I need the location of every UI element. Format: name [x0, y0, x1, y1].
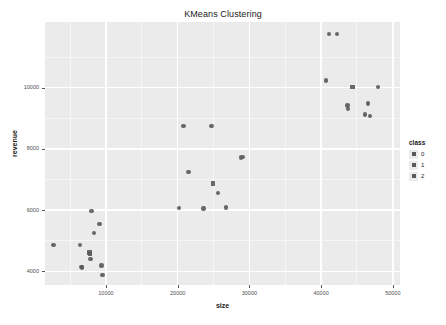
- legend-key-glyph: [412, 174, 416, 178]
- x-tick-mark: [321, 285, 322, 288]
- x-tick-label: 20000: [158, 290, 198, 296]
- x-tick-label: 40000: [301, 290, 341, 296]
- legend-item-label: 0: [421, 151, 424, 157]
- legend: class 012: [409, 139, 445, 182]
- legend-item-0[interactable]: 0: [409, 149, 445, 160]
- legend-item-label: 2: [421, 173, 424, 179]
- chart-title: KMeans Clustering: [0, 9, 446, 19]
- data-points-layer: [45, 22, 400, 285]
- data-point: [92, 231, 96, 235]
- data-point: [224, 205, 228, 209]
- legend-item-2[interactable]: 2: [409, 171, 445, 182]
- legend-items: 012: [409, 149, 445, 182]
- data-point: [51, 243, 55, 247]
- x-tick-mark: [393, 285, 394, 288]
- data-point: [363, 112, 367, 116]
- y-tick-mark: [42, 210, 45, 211]
- y-tick-label: 8000: [0, 145, 39, 151]
- data-point: [327, 32, 331, 36]
- data-point: [335, 32, 339, 36]
- legend-key-glyph: [412, 163, 416, 167]
- x-tick-label: 30000: [229, 290, 269, 296]
- y-tick-mark: [42, 149, 45, 150]
- data-point: [99, 263, 103, 267]
- data-point: [78, 243, 82, 247]
- plot-panel: [45, 22, 400, 285]
- y-tick-label: 4000: [0, 268, 39, 274]
- data-point: [80, 265, 84, 269]
- data-point: [324, 78, 328, 82]
- data-point: [177, 206, 181, 210]
- y-tick-label: 6000: [0, 207, 39, 213]
- y-tick-label: 10000: [0, 84, 39, 90]
- y-tick-mark: [42, 88, 45, 89]
- data-point: [376, 85, 380, 89]
- data-point: [216, 191, 220, 195]
- legend-key-glyph: [412, 152, 416, 156]
- data-point: [88, 252, 93, 257]
- data-point: [100, 273, 104, 277]
- y-axis-title: revenue: [11, 121, 18, 167]
- data-point: [181, 124, 185, 128]
- y-tick-mark: [42, 271, 45, 272]
- data-point: [186, 170, 190, 174]
- legend-key-swatch: [409, 161, 418, 170]
- x-tick-mark: [178, 285, 179, 288]
- data-point: [350, 85, 355, 90]
- x-tick-label: 50000: [373, 290, 413, 296]
- legend-item-1[interactable]: 1: [409, 160, 445, 171]
- x-tick-label: 10000: [86, 290, 126, 296]
- data-point: [97, 222, 101, 226]
- x-axis-title: size: [45, 302, 400, 309]
- data-point: [88, 257, 92, 261]
- data-point: [346, 107, 350, 111]
- x-tick-mark: [106, 285, 107, 288]
- data-point: [201, 206, 205, 210]
- data-point: [366, 101, 370, 105]
- legend-item-label: 1: [421, 162, 424, 168]
- data-point: [368, 114, 372, 118]
- legend-title: class: [409, 139, 445, 146]
- x-tick-mark: [249, 285, 250, 288]
- legend-key-swatch: [409, 172, 418, 181]
- legend-key-swatch: [409, 150, 418, 159]
- data-point: [209, 124, 213, 128]
- data-point: [211, 181, 216, 186]
- data-point: [89, 209, 93, 213]
- chart-root: KMeans Clustering 40006000800010000 1000…: [0, 0, 446, 325]
- data-point: [241, 155, 245, 159]
